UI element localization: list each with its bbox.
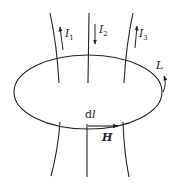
wire-1-lower <box>51 122 60 176</box>
current-3-label: I3 <box>138 27 148 42</box>
wire-3-upper <box>124 13 133 83</box>
wire-3-lower <box>123 122 129 177</box>
element-dl-label: dl <box>85 108 96 121</box>
wire-1-upper <box>50 13 59 83</box>
current-2-label: I2 <box>98 23 108 38</box>
current-1-arrow-icon <box>60 27 63 50</box>
loop-label: L <box>155 59 163 72</box>
current-1-label: I1 <box>64 27 74 42</box>
loop-direction-arrow-icon <box>163 76 165 92</box>
current-3-arrow-icon <box>135 26 137 48</box>
ampere-loop-diagram: I1 I2 I3 L dl H <box>0 0 176 186</box>
wire-2-upper <box>88 13 89 83</box>
field-H-label: H <box>101 131 113 144</box>
